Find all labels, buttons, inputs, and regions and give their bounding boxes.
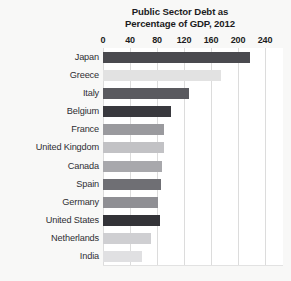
bar-row-united-states <box>103 215 283 226</box>
category-label-japan: Japan <box>0 53 99 62</box>
bar-row-spain <box>103 179 283 190</box>
chart-title-line-2: Percentage of GDP, 2012 <box>85 18 275 30</box>
x-tick-label-240: 240 <box>258 35 272 45</box>
bar-india <box>103 251 142 262</box>
bar-row-canada <box>103 161 283 172</box>
category-label-belgium: Belgium <box>0 107 99 116</box>
bar-row-france <box>103 124 283 135</box>
bar-italy <box>103 88 189 99</box>
x-tick-label-0: 0 <box>101 35 106 45</box>
bar-row-germany <box>103 197 283 208</box>
category-label-germany: Germany <box>0 198 99 207</box>
y-axis-category-labels: JapanGreeceItalyBelgiumFranceUnited King… <box>0 0 99 281</box>
category-label-france: France <box>0 125 99 134</box>
category-label-united-kingdom: United Kingdom <box>0 143 99 152</box>
bar-row-united-kingdom <box>103 142 283 153</box>
bar-row-belgium <box>103 106 283 117</box>
bar-row-japan <box>103 52 283 63</box>
bar-germany <box>103 197 158 208</box>
bar-japan <box>103 52 250 63</box>
bar-canada <box>103 161 162 172</box>
bar-row-netherlands <box>103 233 283 244</box>
category-label-italy: Italy <box>0 89 99 98</box>
bar-row-india <box>103 251 283 262</box>
bar-row-italy <box>103 88 283 99</box>
bar-united-kingdom <box>103 142 164 153</box>
x-tick-label-160: 160 <box>204 35 218 45</box>
category-label-spain: Spain <box>0 180 99 189</box>
bar-row-greece <box>103 70 283 81</box>
x-tick-label-40: 40 <box>125 35 135 45</box>
x-tick-label-80: 80 <box>152 35 162 45</box>
x-tick-label-200: 200 <box>231 35 245 45</box>
category-label-united-states: United States <box>0 216 99 225</box>
bar-united-states <box>103 215 160 226</box>
x-tick-label-120: 120 <box>177 35 191 45</box>
plot-bottom-rule <box>103 265 283 266</box>
bar-greece <box>103 70 221 81</box>
chart-title-line-1: Public Sector Debt as <box>85 6 275 18</box>
chart-title: Public Sector Debt as Percentage of GDP,… <box>85 6 275 29</box>
bar-france <box>103 124 164 135</box>
category-label-netherlands: Netherlands <box>0 234 99 243</box>
category-label-greece: Greece <box>0 71 99 80</box>
chart-container: Public Sector Debt as Percentage of GDP,… <box>0 0 291 281</box>
category-label-canada: Canada <box>0 162 99 171</box>
category-label-india: India <box>0 252 99 261</box>
bar-spain <box>103 179 161 190</box>
plot-area <box>103 48 283 266</box>
bar-belgium <box>103 106 171 117</box>
bar-netherlands <box>103 233 151 244</box>
